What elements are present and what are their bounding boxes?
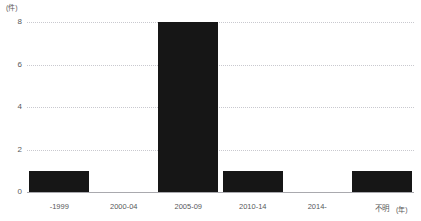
y-axis-tick-label: 2 (2, 146, 22, 154)
gridline (27, 107, 414, 108)
gridline (27, 22, 414, 23)
x-axis-tick-label: 2005-09 (156, 202, 221, 211)
y-axis-tick-label: 0 (2, 188, 22, 196)
x-axis-tick-label: 2014- (285, 202, 350, 211)
y-axis-tick-label: 4 (2, 103, 22, 111)
y-axis-tick-label: 6 (2, 61, 22, 69)
gridline (27, 65, 414, 66)
bar (158, 22, 218, 192)
x-axis-unit-label: (年) (396, 204, 408, 214)
bar-chart: (件) 02468 -19992000-042005-092010-142014… (0, 0, 421, 221)
x-axis-tick-label: 2010-14 (221, 202, 286, 211)
y-axis-tick-label: 8 (2, 18, 22, 26)
x-axis-tick-label: -1999 (27, 202, 92, 211)
bar (29, 171, 89, 192)
gridline (27, 150, 414, 151)
x-axis-tick-label: 2000-04 (92, 202, 157, 211)
x-axis-line (27, 192, 414, 193)
bar (352, 171, 412, 192)
y-axis-unit-label: (件) (6, 2, 18, 12)
bar (223, 171, 283, 192)
plot-area (27, 22, 414, 192)
